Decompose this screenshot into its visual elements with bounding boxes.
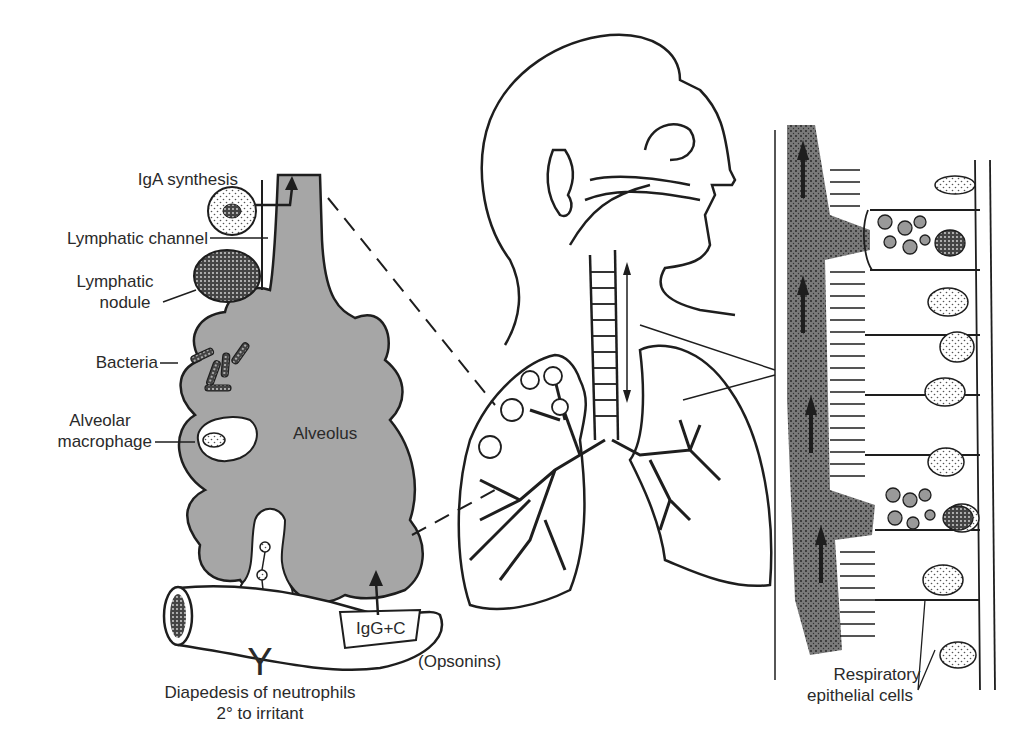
- label-lymphatic-nodule-1: Lymphatic: [55, 272, 175, 292]
- antibody-y-icon: Y: [240, 642, 280, 682]
- respiratory-epithelium: [787, 125, 995, 690]
- alveoli-clusters: [479, 367, 568, 458]
- alveolus-shape: [179, 175, 423, 609]
- label-respiratory-2: epithelial cells: [790, 686, 930, 706]
- lymphatic-nodule: [194, 250, 260, 302]
- label-diapedesis-2: 2° to irritant: [140, 704, 380, 724]
- label-alveolar-macrophage-1: Alveolar: [40, 411, 160, 431]
- label-bacteria: Bacteria: [60, 353, 158, 373]
- label-diapedesis-1: Diapedesis of neutrophils: [140, 683, 380, 703]
- trachea: [590, 250, 618, 440]
- label-respiratory-1: Respiratory: [812, 665, 942, 685]
- label-alveolar-macrophage-2: macrophage: [20, 432, 152, 452]
- label-lymphatic-nodule-2: nodule: [75, 293, 175, 313]
- lungs: [459, 346, 771, 609]
- label-alveolus: Alveolus: [293, 424, 357, 444]
- label-iga-synthesis: IgA synthesis: [108, 170, 238, 190]
- label-igg-c: IgG+C: [356, 619, 406, 639]
- label-opsonins: (Opsonins): [418, 652, 501, 672]
- label-lymphatic-channel: Lymphatic channel: [20, 229, 208, 249]
- head-outline: [482, 35, 735, 345]
